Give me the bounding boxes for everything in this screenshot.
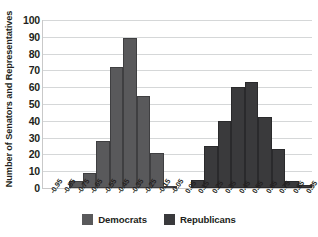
- histogram-chart: Number of Senators and Representatives 0…: [0, 0, 318, 237]
- y-tick-label: 40: [4, 115, 40, 127]
- legend-swatch-icon: [164, 214, 175, 225]
- bar-dem--0.35: [123, 38, 137, 188]
- bar-rep-0.65: [258, 117, 272, 188]
- y-tick-label: 20: [4, 148, 40, 160]
- chart-legend: DemocratsRepublicans: [0, 214, 318, 225]
- bars-container: [42, 20, 312, 188]
- y-tick-label: 50: [4, 98, 40, 110]
- y-tick-label: 30: [4, 132, 40, 144]
- y-tick-label: 0: [4, 182, 40, 194]
- legend-label: Republicans: [180, 214, 236, 225]
- bar-rep-0.35: [218, 121, 232, 188]
- y-axis-tick-labels: 0102030405060708090100: [0, 0, 40, 237]
- bar-dem--0.25: [137, 96, 151, 188]
- bar-dem--0.45: [110, 67, 124, 188]
- bar-rep-0.55: [245, 82, 259, 188]
- y-tick-label: 100: [4, 14, 40, 26]
- y-tick-label: 60: [4, 81, 40, 93]
- y-tick-label: 80: [4, 48, 40, 60]
- bar-rep-0.45: [231, 87, 245, 188]
- y-tick-label: 10: [4, 165, 40, 177]
- legend-label: Democrats: [98, 214, 147, 225]
- legend-item-republicans[interactable]: Republicans: [164, 214, 236, 225]
- y-tick-label: 70: [4, 64, 40, 76]
- y-tick-label: 90: [4, 31, 40, 43]
- legend-swatch-icon: [82, 214, 93, 225]
- legend-item-democrats[interactable]: Democrats: [82, 214, 147, 225]
